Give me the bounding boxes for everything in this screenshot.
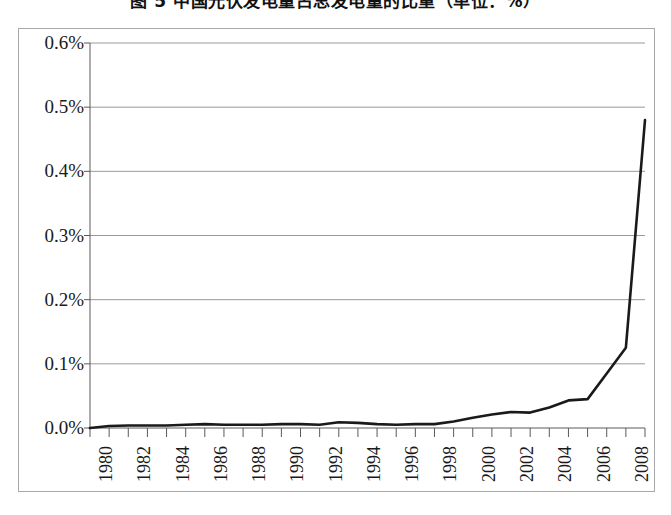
x-tick-label: 1980 [97,446,115,482]
x-tick-label: 1982 [135,446,153,482]
x-tick-label: 2000 [480,446,498,482]
x-tick-label: 1990 [288,446,306,482]
x-tick-label: 1988 [250,446,268,482]
x-tick-label: 1996 [403,446,421,482]
x-axis-label-group: 1980198219841986198819901992199419961998… [0,0,671,515]
x-tick-label: 1992 [327,446,345,482]
x-tick-label: 2004 [556,446,574,482]
x-tick-label: 1986 [212,446,230,482]
x-tick-label: 2006 [595,446,613,482]
x-tick-label: 1998 [441,446,459,482]
x-tick-label: 1984 [174,446,192,482]
x-tick-label: 2008 [633,446,651,482]
x-tick-label: 1994 [365,446,383,482]
x-tick-label: 2002 [518,446,536,482]
